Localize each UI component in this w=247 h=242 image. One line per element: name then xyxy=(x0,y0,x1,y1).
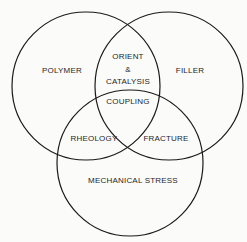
venn-diagram: POLYMER FILLER MECHANICAL STRESS ORIENT … xyxy=(0,0,247,242)
label-ampersand: & xyxy=(125,66,131,74)
label-catalysis: CATALYSIS xyxy=(106,78,150,86)
circle-mechanical-stress xyxy=(57,90,203,236)
label-mechanical-stress: MECHANICAL STRESS xyxy=(88,177,178,185)
label-coupling: COUPLING xyxy=(106,98,149,106)
venn-circles xyxy=(0,0,247,242)
label-filler: FILLER xyxy=(176,67,204,75)
label-orient: ORIENT xyxy=(112,53,143,61)
label-fracture: FRACTURE xyxy=(143,135,188,143)
label-rheology: RHEOLOGY xyxy=(71,135,118,143)
label-polymer: POLYMER xyxy=(42,67,82,75)
